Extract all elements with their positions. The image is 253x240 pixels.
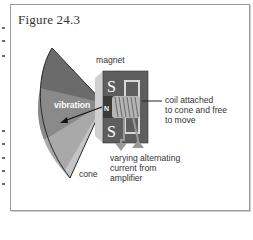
current-label: varying alternating current from amplifi… xyxy=(110,153,180,183)
pole-center-label: N xyxy=(104,105,109,112)
speaker-cone xyxy=(38,48,104,178)
coil-label-line: to move xyxy=(165,115,227,125)
current-label-line: amplifier xyxy=(110,173,180,183)
current-label-line: varying alternating xyxy=(110,153,180,163)
pole-top-label: S xyxy=(107,78,116,95)
coil-label: coil attached to cone and free to move xyxy=(165,95,227,125)
vibration-label: vibration xyxy=(54,100,90,110)
voice-coil xyxy=(112,96,140,118)
current-label-line: current from xyxy=(110,163,180,173)
magnet-label: magnet xyxy=(96,55,125,65)
wire-arrow-down-icon xyxy=(115,143,127,151)
coil-label-line: to cone and free xyxy=(165,105,227,115)
cone-label: cone xyxy=(79,169,98,179)
pole-bottom-label: S xyxy=(107,123,116,140)
coil-label-line: coil attached xyxy=(165,95,227,105)
